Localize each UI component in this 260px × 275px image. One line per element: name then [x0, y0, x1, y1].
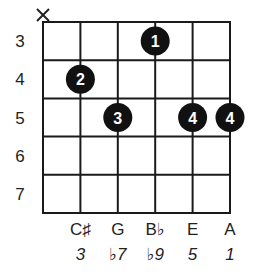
interval-label: 3 — [76, 245, 86, 264]
finger-number: 4 — [226, 110, 235, 127]
fret-number: 4 — [15, 70, 24, 89]
interval-label: 1 — [225, 245, 234, 264]
note-name: B♭ — [146, 220, 165, 239]
note-name: C♯ — [70, 220, 91, 239]
fret-number: 5 — [15, 109, 24, 128]
fret-number: 7 — [15, 185, 24, 204]
fret-number: 3 — [15, 32, 24, 51]
finger-dot: 4 — [216, 103, 245, 132]
note-name: G — [111, 220, 124, 239]
finger-dot: 3 — [103, 103, 132, 132]
interval-label: 5 — [188, 245, 198, 264]
interval-label: ♭9 — [146, 245, 164, 264]
finger-number: 1 — [151, 33, 160, 50]
string-note-labels: C♯3G♭7B♭♭9E5A1 — [70, 220, 236, 264]
finger-number: 3 — [113, 110, 122, 127]
finger-number: 4 — [188, 110, 197, 127]
muted-string-markers — [37, 9, 49, 21]
finger-dot: 2 — [66, 65, 95, 94]
chord-diagram: 34567 12344 C♯3G♭7B♭♭9E5A1 — [0, 0, 260, 275]
fret-number-labels: 34567 — [15, 32, 24, 204]
finger-dot: 4 — [178, 103, 207, 132]
note-name: A — [224, 220, 236, 239]
finger-dot: 1 — [141, 27, 170, 56]
fret-number: 6 — [15, 147, 24, 166]
finger-number: 2 — [76, 71, 85, 88]
muted-x-icon — [37, 9, 49, 21]
interval-label: ♭7 — [109, 245, 127, 264]
note-name: E — [187, 220, 198, 239]
